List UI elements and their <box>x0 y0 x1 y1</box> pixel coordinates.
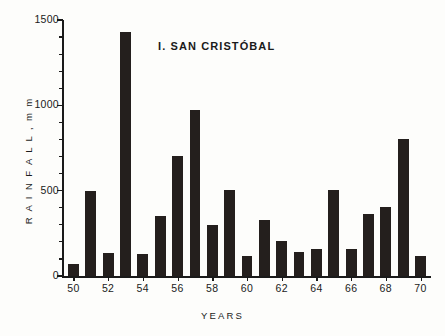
x-tick <box>212 277 213 281</box>
bar-69 <box>398 139 409 276</box>
y-tick-minor <box>59 258 63 259</box>
x-tick <box>178 277 179 281</box>
y-tick-minor <box>59 173 63 174</box>
x-tick <box>386 277 387 281</box>
y-tick-minor <box>59 122 63 123</box>
y-tick-label: 500 <box>0 184 59 196</box>
bar-64 <box>311 249 322 276</box>
x-axis-title: YEARS <box>0 310 445 321</box>
x-tick <box>143 277 144 281</box>
bar-67 <box>363 214 374 276</box>
plot-area: 050010001500 5052545658606264666870 <box>63 20 431 276</box>
bar-53 <box>120 32 131 276</box>
bar-54 <box>137 254 148 276</box>
y-tick-label: 1500 <box>0 13 59 25</box>
y-tick-minor <box>59 88 63 89</box>
bar-65 <box>328 190 339 276</box>
x-tick <box>73 277 74 281</box>
y-tick-minor <box>59 241 63 242</box>
x-tick-label: 70 <box>401 282 441 294</box>
bar-52 <box>103 253 114 276</box>
y-tick-minor <box>59 36 63 37</box>
y-tick-label: 1000 <box>0 98 59 110</box>
y-tick-minor <box>59 207 63 208</box>
x-tick <box>108 277 109 281</box>
x-tick <box>351 277 352 281</box>
y-tick-minor <box>59 156 63 157</box>
bar-55 <box>155 216 166 276</box>
y-axis-spine <box>62 20 64 276</box>
bar-57 <box>190 110 201 276</box>
bar-61 <box>259 220 270 276</box>
y-tick-minor <box>59 54 63 55</box>
bar-51 <box>85 191 96 276</box>
rainfall-bar-chart-figure: R A I N F A L L , m m I. SAN CRISTÓBAL 0… <box>0 0 445 336</box>
bar-68 <box>380 207 391 276</box>
bar-58 <box>207 225 218 276</box>
y-tick-minor <box>59 224 63 225</box>
bar-66 <box>346 249 357 276</box>
x-tick <box>282 277 283 281</box>
y-tick-label: 0 <box>0 269 59 281</box>
x-tick <box>421 277 422 281</box>
bar-62 <box>276 241 287 276</box>
bar-70 <box>415 256 426 276</box>
bar-63 <box>294 252 305 276</box>
bar-56 <box>172 156 183 276</box>
y-tick-minor <box>59 139 63 140</box>
bar-50 <box>68 264 79 276</box>
bar-60 <box>242 256 253 276</box>
x-tick <box>316 277 317 281</box>
bar-59 <box>224 190 235 276</box>
x-tick <box>247 277 248 281</box>
y-tick-minor <box>59 71 63 72</box>
